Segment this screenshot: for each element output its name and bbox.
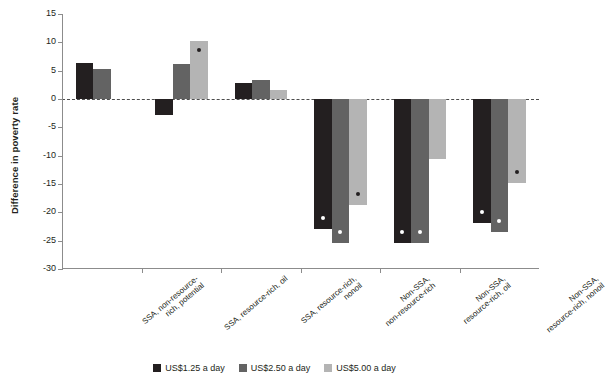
y-tick xyxy=(58,269,63,270)
y-tick-label: -20 xyxy=(28,207,56,216)
y-tick xyxy=(58,71,63,72)
y-axis-line xyxy=(62,14,63,269)
x-category-label: Non-SSA, non-resource-rich xyxy=(377,274,437,329)
bar xyxy=(173,64,191,99)
y-tick-label: 0 xyxy=(28,94,56,103)
y-tick xyxy=(58,127,63,128)
x-category-label: SSA, resource-rich, oil xyxy=(222,274,289,332)
legend-label: US$5.00 a day xyxy=(336,363,396,373)
plot-area: 151050-5-10-15-20-25-30 xyxy=(62,14,539,269)
y-tick-label: -30 xyxy=(28,264,56,273)
x-tick xyxy=(142,268,143,273)
bar xyxy=(473,99,491,223)
legend-swatch-icon xyxy=(324,364,332,372)
bar xyxy=(252,80,270,99)
bar xyxy=(429,99,447,159)
bar xyxy=(411,99,429,243)
legend-swatch-icon xyxy=(153,364,161,372)
y-axis-title: Difference in poverty rate xyxy=(9,56,20,256)
bar xyxy=(332,99,350,243)
y-tick-label: 5 xyxy=(28,66,56,75)
bar xyxy=(394,99,412,243)
bar xyxy=(93,69,111,99)
y-tick-label: -15 xyxy=(28,179,56,188)
legend-item: US$1.25 a day xyxy=(153,363,225,373)
y-tick xyxy=(58,14,63,15)
legend-item: US$5.00 a day xyxy=(324,363,396,373)
x-category-label: SSA, resource-rich, nonoil xyxy=(299,274,364,333)
y-tick xyxy=(58,212,63,213)
x-tick xyxy=(301,268,302,273)
y-tick xyxy=(58,42,63,43)
bar xyxy=(270,90,288,99)
y-tick xyxy=(58,241,63,242)
significance-marker xyxy=(480,210,484,214)
y-tick xyxy=(58,156,63,157)
bar xyxy=(491,99,509,232)
significance-marker xyxy=(418,230,422,234)
significance-marker xyxy=(356,192,360,196)
legend-swatch-icon xyxy=(239,364,247,372)
x-category-label: Non-SSA, resource-rich, oil xyxy=(456,274,513,326)
significance-marker xyxy=(197,48,201,52)
y-tick-label: -10 xyxy=(28,151,56,160)
chart-legend: US$1.25 a dayUS$2.50 a dayUS$5.00 a day xyxy=(0,363,549,373)
bar xyxy=(235,83,253,99)
legend-label: US$2.50 a day xyxy=(251,363,311,373)
bar xyxy=(314,99,332,229)
legend-label: US$1.25 a day xyxy=(165,363,225,373)
bar xyxy=(155,99,173,115)
y-tick-label: -5 xyxy=(28,122,56,131)
x-tick xyxy=(380,268,381,273)
y-tick xyxy=(58,99,63,100)
y-tick xyxy=(58,184,63,185)
x-tick xyxy=(460,268,461,273)
bar xyxy=(349,99,367,205)
bar xyxy=(76,63,94,99)
x-category-label: SSA, non-resource- rich, potential xyxy=(140,274,206,334)
y-tick-label: 15 xyxy=(28,9,56,18)
legend-item: US$2.50 a day xyxy=(239,363,311,373)
y-tick-label: 10 xyxy=(28,37,56,46)
y-tick-label: -25 xyxy=(28,236,56,245)
x-category-label: Non-SSA, resource-rich, nonoil xyxy=(538,274,606,335)
x-tick xyxy=(221,268,222,273)
zero-reference-line xyxy=(62,99,539,100)
